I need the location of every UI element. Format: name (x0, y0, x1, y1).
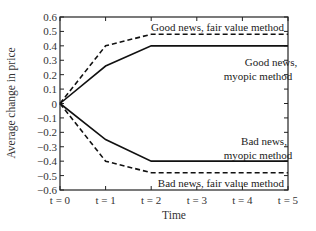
y-tick-label: 0 (52, 98, 58, 110)
svg-text:Good news,: Good news, (245, 56, 298, 68)
y-tick-label: −0.3 (37, 141, 57, 153)
x-tick-label: t = 2 (141, 194, 161, 206)
y-axis-title: Average change in price (5, 47, 18, 158)
annotation-bad-fair: Bad news, fair value method (158, 177, 285, 189)
x-tick-label: t = 5 (278, 194, 299, 206)
svg-text:Bad news, fair value method: Bad news, fair value method (158, 177, 285, 189)
y-axis-ticks: 0.60.50.40.30.20.10−0.1−0.2−0.3−0.4−0.5−… (37, 11, 288, 196)
x-tick-label: t = 1 (95, 194, 115, 206)
annotation-good-myopic: Good news, myopic method (224, 56, 298, 82)
y-tick-label: −0.5 (37, 170, 57, 182)
y-tick-label: 0.5 (43, 25, 57, 37)
x-tick-label: t = 3 (187, 194, 208, 206)
annotation-good-fair: Good news, fair value method (151, 21, 284, 33)
y-tick-label: −0.1 (37, 112, 57, 124)
x-tick-label: t = 0 (50, 194, 71, 206)
y-tick-label: −0.4 (37, 155, 57, 167)
annotation-bad-myopic: Bad news, myopic method (224, 135, 293, 161)
x-tick-label: t = 4 (232, 194, 253, 206)
x-axis-title: Time (162, 209, 186, 221)
series-line (60, 34, 288, 103)
y-tick-label: 0.1 (43, 83, 57, 95)
y-tick-label: −0.2 (37, 126, 57, 138)
y-tick-label: 0.6 (43, 11, 57, 23)
line-chart: 0.60.50.40.30.20.10−0.1−0.2−0.3−0.4−0.5−… (0, 0, 316, 231)
svg-text:myopic method: myopic method (224, 149, 293, 161)
y-tick-label: 0.2 (43, 69, 57, 81)
svg-text:Bad news,: Bad news, (241, 135, 287, 147)
y-tick-label: 0.3 (43, 54, 57, 66)
y-tick-label: 0.4 (43, 40, 57, 52)
plot-frame (60, 17, 288, 190)
svg-text:Good news, fair value method: Good news, fair value method (151, 21, 284, 33)
svg-text:myopic method: myopic method (224, 70, 293, 82)
